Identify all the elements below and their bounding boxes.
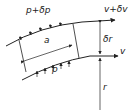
- label-top-pressure: p+δp: [25, 5, 51, 15]
- dimension-a-arrow: [24, 45, 72, 61]
- label-thickness: δr: [103, 34, 114, 44]
- label-bottom-pressure: p: [51, 64, 58, 74]
- label-bottom-velocity: v: [120, 46, 126, 56]
- streamline-diagram: p+δp p v+δv v a δr r: [0, 0, 137, 112]
- element-right-side: [73, 24, 79, 58]
- label-radius: r: [103, 82, 108, 92]
- element-left-side: [19, 40, 26, 72]
- label-top-velocity: v+δv: [104, 4, 128, 14]
- bottom-streamline: [22, 56, 118, 80]
- label-element-length: a: [44, 35, 50, 45]
